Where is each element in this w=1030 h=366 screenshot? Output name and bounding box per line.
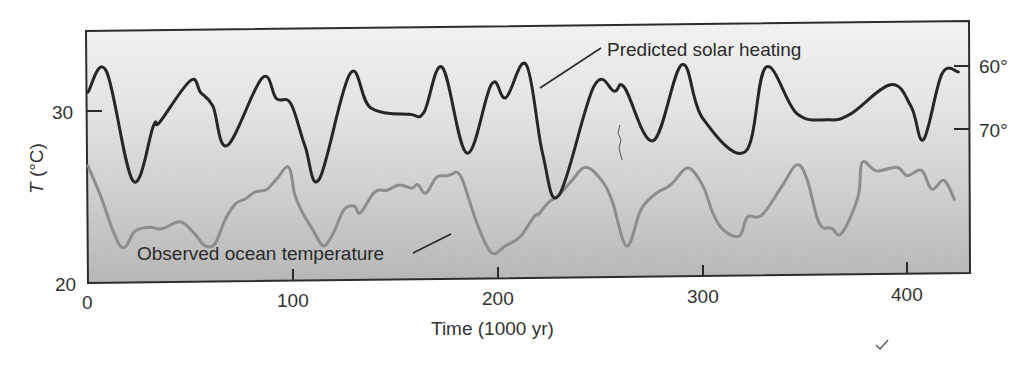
right-tick-label-70: 70° (979, 120, 1008, 141)
x-tick-label-100: 100 (277, 290, 309, 311)
x-tick-label-300: 300 (687, 286, 719, 307)
check-mark-icon (876, 340, 888, 349)
y-tick-label-20: 20 (55, 274, 76, 295)
annotation-observed-ocean-temperature: Observed ocean temperature (137, 243, 384, 264)
x-tick-label-200: 200 (482, 288, 514, 309)
x-tick-label-400: 400 (891, 284, 923, 305)
right-tick-label-60: 60° (979, 56, 1008, 77)
annotation-predicted-solar-heating: Predicted solar heating (607, 39, 801, 60)
x-axis-title: Time (1000 yr) (431, 318, 554, 339)
y-axis-title-unit: (°C) (26, 143, 47, 182)
y-axis-title: T (°C) (26, 143, 47, 194)
chart-figure: 30 20 60° 70° 0 100 200 300 400 Time (10… (0, 0, 1030, 366)
y-tick-label-30: 30 (52, 102, 73, 123)
x-tick-label-0: 0 (82, 292, 93, 313)
